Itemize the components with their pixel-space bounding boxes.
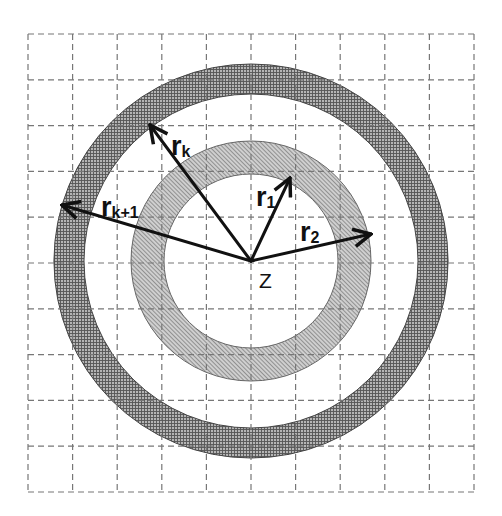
- label-center-z: Z: [259, 269, 272, 292]
- label-rk: rk: [171, 131, 191, 161]
- label-r1: r1: [256, 182, 276, 212]
- dashed-grid: [28, 34, 474, 492]
- concentric-rings-diagram: r1 r2 rk rk+1 Z: [0, 0, 502, 516]
- label-r2: r2: [300, 217, 320, 247]
- label-rk1: rk+1: [101, 192, 139, 222]
